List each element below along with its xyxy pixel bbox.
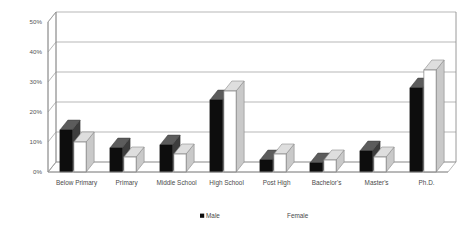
bar-front-face xyxy=(124,157,136,172)
plot-floor xyxy=(48,162,456,172)
x-tick-label: Bachelor's xyxy=(312,179,342,186)
x-tick-label: Master's xyxy=(365,179,389,186)
gridline xyxy=(48,72,456,82)
plot-3d-walls xyxy=(48,12,456,172)
bar-front-face xyxy=(260,160,272,172)
bar-front-face xyxy=(60,130,72,172)
legend-swatch-male-icon xyxy=(200,214,204,218)
x-tick-label: Below Primary xyxy=(56,179,98,187)
y-tick-label: 0% xyxy=(33,168,42,175)
bar-side-face xyxy=(236,81,244,172)
y-tick-label: 10% xyxy=(30,138,43,145)
bar-front-face xyxy=(310,163,322,172)
gridline xyxy=(48,42,456,52)
bar-female-ph-d xyxy=(424,60,444,172)
bar-front-face xyxy=(74,142,86,172)
legend-label-female: Female xyxy=(287,212,309,219)
gridline xyxy=(48,12,456,22)
chart-legend: MaleFemale xyxy=(200,212,309,219)
bar-chart: 0%10%20%30%40%50% Below PrimaryPrimaryMi… xyxy=(0,0,470,228)
bar-front-face xyxy=(110,148,122,172)
bar-front-face xyxy=(410,88,422,172)
chart-canvas: 0%10%20%30%40%50% Below PrimaryPrimaryMi… xyxy=(0,0,470,228)
gridline xyxy=(48,132,456,142)
bar-front-face xyxy=(324,160,336,172)
legend-swatch-female-icon xyxy=(281,214,285,218)
y-tick-label: 50% xyxy=(30,18,43,25)
legend-label-male: Male xyxy=(206,212,220,219)
y-tick-label: 20% xyxy=(30,108,43,115)
bar-female-below-primary xyxy=(74,132,94,172)
bar-front-face xyxy=(274,154,286,172)
axis-lines xyxy=(48,12,456,172)
x-axis-tick-labels: Below PrimaryPrimaryMiddle SchoolHigh Sc… xyxy=(56,179,435,187)
x-tick-label: Post High xyxy=(263,179,291,187)
x-tick-label: High School xyxy=(209,179,243,187)
x-tick-label: Primary xyxy=(116,179,139,187)
bar-female-high-school xyxy=(224,81,244,172)
gridline xyxy=(48,102,456,112)
bar-front-face xyxy=(174,154,186,172)
bar-front-face xyxy=(424,70,436,172)
bar-front-face xyxy=(160,145,172,172)
plot-left-wall xyxy=(48,12,56,172)
bar-front-face xyxy=(360,151,372,172)
x-tick-label: Middle School xyxy=(157,179,197,186)
x-tick-label: Ph.D. xyxy=(419,179,435,186)
bar-front-face xyxy=(374,157,386,172)
y-tick-label: 40% xyxy=(30,48,43,55)
gridlines xyxy=(48,12,456,172)
bar-front-face xyxy=(224,91,236,172)
y-tick-label: 30% xyxy=(30,78,43,85)
bar-front-face xyxy=(210,100,222,172)
bar-side-face xyxy=(436,60,444,172)
bar-series-group xyxy=(60,60,444,172)
y-axis-tick-labels: 0%10%20%30%40%50% xyxy=(30,18,43,175)
